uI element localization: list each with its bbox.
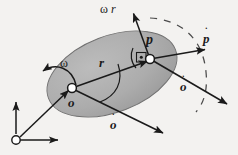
label-omega: ω bbox=[60, 57, 68, 69]
label-r: r bbox=[99, 56, 104, 69]
label-point-o: o bbox=[68, 96, 75, 109]
o-dot-glyph-upper: o˙ bbox=[180, 80, 187, 93]
point-marker-o bbox=[68, 84, 77, 93]
omega-glyph: ω bbox=[100, 2, 108, 16]
point-marker-p bbox=[146, 55, 155, 64]
p-dot-glyph: p˙ bbox=[203, 32, 210, 45]
vector-position-o bbox=[20, 91, 69, 138]
figure-canvas bbox=[0, 0, 238, 155]
label-o-dot-upper: o˙ bbox=[180, 80, 187, 93]
r-tilde-glyph: r˜ bbox=[111, 3, 116, 15]
o-dot-glyph-lower: o˙ bbox=[110, 118, 117, 131]
kinematics-figure: ωr˜ p p˙ ω r o o˙ o˙ bbox=[0, 0, 238, 155]
label-omega-r-tilde: ωr˜ bbox=[100, 3, 116, 15]
label-o-dot-lower: o˙ bbox=[110, 118, 117, 131]
label-p-dot: p˙ bbox=[203, 32, 210, 45]
label-point-p: p bbox=[146, 33, 153, 47]
